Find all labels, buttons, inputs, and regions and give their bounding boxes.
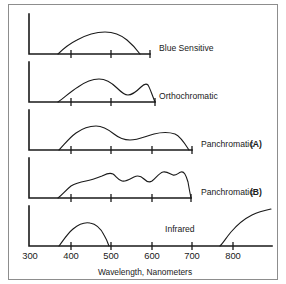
x-tick-label-800: 800	[225, 250, 241, 261]
series-label-infrared: Infrared	[165, 224, 195, 234]
x-tick-label-300: 300	[22, 250, 38, 261]
x-axis-caption: Wavelength, Nanometers	[98, 267, 192, 277]
series-label-panchromatic-b-suffix: (B)	[250, 187, 262, 197]
panel-axis-panchromatic-a	[29, 110, 192, 150]
series-label-panchromatic-b: Panchromatic	[201, 187, 254, 197]
panel-infrared: Infrared	[29, 206, 272, 250]
panel-panchromatic-b: Panchromatic (B)	[29, 158, 262, 202]
x-tick-label-400: 400	[63, 250, 79, 261]
series-label-blue-sensitive: Blue Sensitive	[159, 43, 214, 53]
spectral-sensitivity-figure: Blue Sensitive Orthochromatic Panchro	[0, 0, 286, 284]
x-tick-label-600: 600	[144, 250, 160, 261]
x-axis-tick-labels: 300 400 500 600 700 800	[22, 250, 241, 261]
panel-axis-infrared	[29, 206, 272, 246]
curve-blue-sensitive	[58, 32, 140, 54]
x-tick-label-500: 500	[103, 250, 119, 261]
curve-infrared-visible-hump	[59, 223, 109, 246]
curve-panchromatic-b	[58, 172, 191, 198]
curve-panchromatic-a	[59, 126, 189, 150]
panel-panchromatic-a: Panchromatic (A)	[29, 110, 262, 154]
series-label-orthochromatic: Orthochromatic	[159, 91, 218, 101]
panel-axis-orthochromatic	[29, 62, 155, 102]
x-tick-label-700: 700	[184, 250, 200, 261]
panel-axis-panchromatic-b	[29, 158, 191, 198]
spectral-sensitivity-chart: Blue Sensitive Orthochromatic Panchro	[0, 0, 286, 284]
panel-blue-sensitive: Blue Sensitive	[29, 14, 214, 58]
curve-orthochromatic	[58, 79, 155, 102]
series-label-panchromatic-a: Panchromatic	[201, 139, 254, 149]
series-label-panchromatic-a-suffix: (A)	[250, 139, 262, 149]
panel-orthochromatic: Orthochromatic	[29, 62, 218, 106]
curve-infrared-rise	[220, 209, 271, 246]
